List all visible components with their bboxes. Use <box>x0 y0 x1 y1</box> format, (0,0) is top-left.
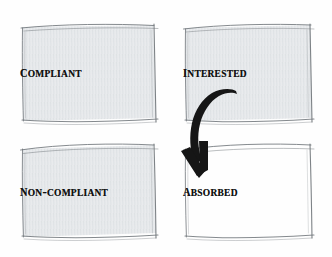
sketch-canvas: Compliant Interest <box>0 0 332 257</box>
